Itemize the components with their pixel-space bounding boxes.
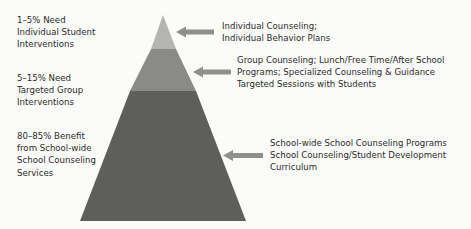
label-line: School Counseling/Student Development (270, 149, 447, 161)
arrow-icon-middle (193, 67, 231, 78)
label-line: Individual Behavior Plans (222, 32, 330, 44)
tier-top-left-label: 1–5% Need Individual Student Interventio… (17, 14, 95, 51)
arrow-icon-bottom (223, 150, 263, 161)
label-line: School-wide School Counseling Programs (270, 137, 447, 149)
tier-bottom-left-label: 80–85% Benefit from School-wide School C… (17, 130, 96, 179)
label-line: Interventions (17, 38, 95, 50)
label-line: Individual Counseling; (222, 20, 330, 32)
label-line: Services (17, 167, 96, 179)
tier-middle-left-label: 5–15% Need Targeted Group Interventions (17, 72, 83, 109)
pyramid-tier-top (151, 15, 176, 49)
label-line: School Counseling (17, 154, 96, 166)
label-line: 5–15% Need (17, 72, 83, 84)
label-line: Programs; Specialized Counseling & Guida… (237, 66, 445, 78)
label-line: 1–5% Need (17, 14, 95, 26)
pyramid-tier-middle (130, 49, 196, 91)
label-line: from School-wide (17, 142, 96, 154)
label-line: Targeted Group (17, 84, 83, 96)
label-line: Individual Student (17, 26, 95, 38)
tier-middle-right-label: Group Counseling; Lunch/Free Time/After … (237, 54, 445, 91)
tier-top-right-label: Individual Counseling; Individual Behavi… (222, 20, 330, 44)
label-line: 80–85% Benefit (17, 130, 96, 142)
arrow-icon-top (176, 27, 214, 38)
label-line: Group Counseling; Lunch/Free Time/After … (237, 54, 445, 66)
pyramid-tier-bottom (80, 91, 246, 221)
label-line: Interventions (17, 96, 83, 108)
label-line: Curriculum (270, 161, 447, 173)
label-line: Targeted Sessions with Students (237, 78, 445, 90)
tier-bottom-right-label: School-wide School Counseling Programs S… (270, 137, 447, 174)
